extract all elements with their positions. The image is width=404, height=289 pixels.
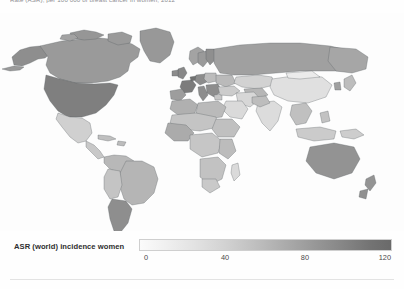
legend-colorbar: [139, 239, 392, 251]
legend: ASR (world) incidence women 0 40 80 120: [0, 236, 404, 270]
figure-root: Rate (ASR), per 100 000 of breast cancer…: [0, 0, 404, 289]
legend-tick-0: 0: [144, 253, 148, 262]
region-philippines: [320, 111, 330, 123]
world-map-stage: [0, 13, 404, 231]
bottom-divider: [10, 279, 394, 280]
legend-title: ASR (world) incidence women: [14, 242, 124, 251]
legend-tick-120: 120: [379, 253, 391, 262]
figure-title: Rate (ASR), per 100 000 of breast cancer…: [10, 0, 400, 5]
legend-tick-80: 80: [301, 253, 309, 262]
legend-tick-40: 40: [221, 253, 229, 262]
world-map-panel: [0, 13, 404, 231]
region-ireland: [172, 70, 178, 76]
legend-colorbar-wrap: [139, 239, 392, 251]
region-korea: [334, 82, 341, 90]
legend-tick-row: 0 40 80 120: [139, 253, 392, 265]
world-map-svg: [0, 13, 404, 231]
